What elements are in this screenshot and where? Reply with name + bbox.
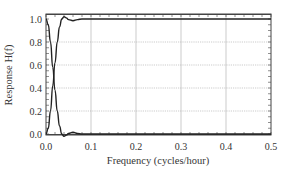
x-tick-label: 0.2 <box>130 141 143 152</box>
y-tick-labels: 0.00.20.40.60.81.0 <box>30 14 43 140</box>
series-line-low-pass <box>46 19 271 136</box>
series-line-high-pass <box>46 17 271 134</box>
x-tick-labels: 0.00.10.20.30.40.5 <box>40 141 278 152</box>
x-tick-label: 0.3 <box>175 141 188 152</box>
axis-ticks <box>46 14 271 135</box>
grid-lines <box>46 14 271 135</box>
x-tick-label: 0.4 <box>220 141 233 152</box>
x-tick-label: 0.5 <box>265 141 278 152</box>
y-tick-label: 0.0 <box>30 129 43 140</box>
y-tick-label: 1.0 <box>30 14 43 25</box>
y-tick-label: 0.2 <box>30 106 43 117</box>
response-chart: 0.00.10.20.30.40.5 0.00.20.40.60.81.0 Fr… <box>0 0 289 174</box>
data-series <box>46 17 271 137</box>
x-axis-label: Frequency (cycles/hour) <box>107 155 210 167</box>
y-tick-label: 0.8 <box>30 37 43 48</box>
y-tick-label: 0.4 <box>30 83 43 94</box>
x-tick-label: 0.1 <box>85 141 98 152</box>
plot-frame <box>46 14 271 135</box>
y-axis-label: Response H(f) <box>3 44 15 105</box>
x-tick-label: 0.0 <box>40 141 53 152</box>
y-tick-label: 0.6 <box>30 60 43 71</box>
